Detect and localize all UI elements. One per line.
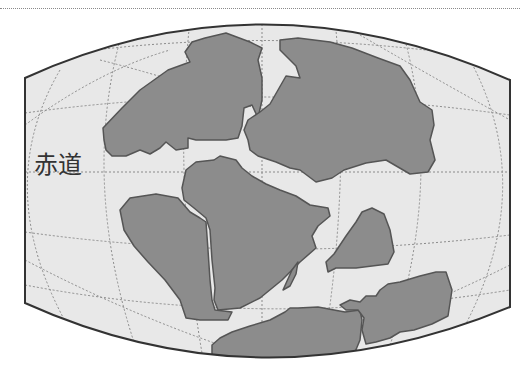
equator-label: 赤道 [34,145,82,180]
pangaea-map [0,0,520,376]
